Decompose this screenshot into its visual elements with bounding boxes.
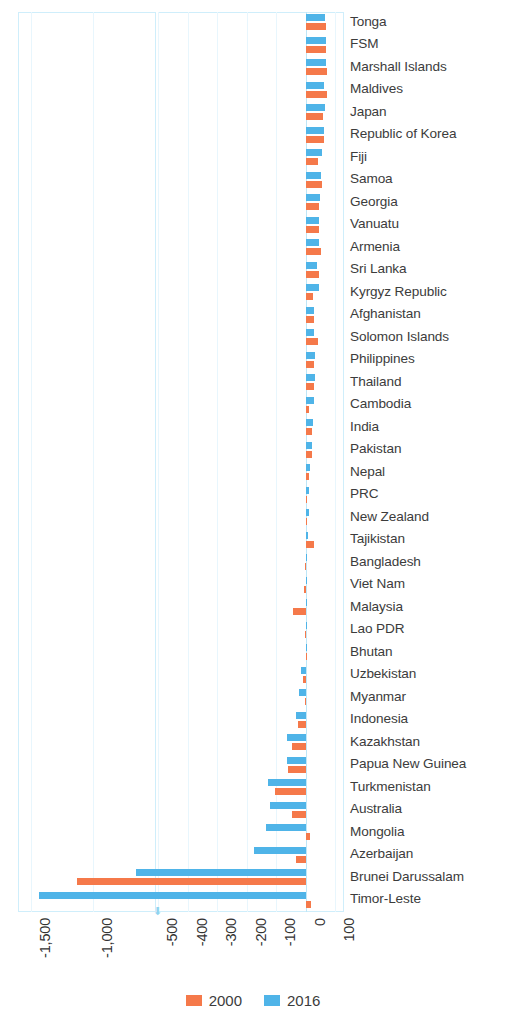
bar-2000 — [306, 136, 324, 143]
bar-2016 — [306, 554, 308, 561]
bar-2016 — [306, 397, 315, 404]
bar-2016 — [306, 577, 307, 584]
bar-group — [0, 800, 506, 823]
bar-2016 — [299, 689, 306, 696]
bar-2016 — [306, 59, 326, 66]
bar-2016 — [306, 442, 312, 449]
bar-group — [0, 305, 506, 328]
bar-2000 — [303, 676, 305, 683]
bar-group — [0, 35, 506, 58]
category-label: Samoa — [350, 168, 393, 191]
bar-group — [0, 687, 506, 710]
bar-2000 — [305, 698, 306, 705]
bar-group — [0, 395, 506, 418]
legend-label: 2000 — [209, 992, 242, 1009]
bar-2000 — [306, 158, 318, 165]
bar-group — [0, 732, 506, 755]
bar-2000 — [77, 878, 306, 885]
category-label: Turkmenistan — [350, 776, 431, 799]
category-label: Cambodia — [350, 393, 411, 416]
bar-2000 — [296, 856, 306, 863]
bar-2016 — [306, 284, 320, 291]
category-label: Vanuatu — [350, 213, 399, 236]
bar-2016 — [306, 239, 319, 246]
bar-2016 — [306, 104, 325, 111]
bar-2000 — [306, 203, 319, 210]
bar-2000 — [306, 91, 328, 98]
category-label: Pakistan — [350, 438, 401, 461]
bar-group — [0, 552, 506, 575]
bar-2000 — [306, 226, 320, 233]
bar-2000 — [306, 23, 327, 30]
bar-2000 — [306, 293, 313, 300]
category-label: Bhutan — [350, 641, 393, 664]
category-label: Tonga — [350, 11, 387, 34]
bar-2000 — [306, 383, 314, 390]
bar-group — [0, 440, 506, 463]
bar-2016 — [306, 217, 319, 224]
category-label: Kazakhstan — [350, 731, 420, 754]
bar-2016 — [306, 172, 321, 179]
bar-2016 — [306, 307, 315, 314]
category-label: India — [350, 416, 379, 439]
bar-group — [0, 12, 506, 35]
bar-group — [0, 147, 506, 170]
bar-2016 — [306, 194, 321, 201]
category-label: Nepal — [350, 461, 385, 484]
legend-label: 2016 — [287, 992, 320, 1009]
legend-item[interactable]: 2016 — [264, 992, 320, 1009]
bar-group — [0, 822, 506, 845]
bar-group — [0, 575, 506, 598]
category-label: PRC — [350, 483, 378, 506]
bar-2016 — [266, 824, 306, 831]
bar-2000 — [304, 586, 305, 593]
x-tick-label: -1,000 — [99, 918, 115, 958]
bar-2016 — [287, 757, 306, 764]
bar-2000 — [306, 46, 327, 53]
bar-2016 — [306, 487, 309, 494]
category-label: Brunei Darussalam — [350, 866, 464, 889]
bar-2000 — [306, 518, 307, 525]
category-label: Myanmar — [350, 686, 406, 709]
category-label: Azerbaijan — [350, 843, 413, 866]
bar-group — [0, 620, 506, 643]
x-tick-label: 0 — [312, 918, 328, 926]
bar-2000 — [292, 811, 306, 818]
bar-2000 — [288, 766, 305, 773]
bar-2016 — [287, 734, 306, 741]
category-label: Armenia — [350, 236, 400, 259]
bar-2000 — [306, 406, 309, 413]
bar-group — [0, 485, 506, 508]
bar-2000 — [306, 496, 307, 503]
bar-group — [0, 192, 506, 215]
bar-group — [0, 462, 506, 485]
bar-2016 — [306, 464, 310, 471]
bar-2016 — [306, 37, 327, 44]
bar-group — [0, 417, 506, 440]
bar-2016 — [136, 869, 306, 876]
bar-2016 — [306, 14, 326, 21]
bar-group — [0, 710, 506, 733]
category-label: Lao PDR — [350, 618, 404, 641]
category-label: Australia — [350, 798, 402, 821]
x-tick-label: -300 — [223, 918, 239, 946]
bar-group — [0, 845, 506, 868]
category-label: Papua New Guinea — [350, 753, 466, 776]
bar-2000 — [306, 361, 315, 368]
bar-group — [0, 372, 506, 395]
bar-2016 — [306, 419, 313, 426]
bar-2000 — [306, 338, 318, 345]
bar-2000 — [306, 181, 322, 188]
bar-2000 — [306, 68, 328, 75]
bar-group — [0, 80, 506, 103]
bar-2016 — [306, 262, 317, 269]
bar-2016 — [306, 82, 324, 89]
bar-2000 — [306, 653, 307, 660]
bar-2000 — [305, 631, 306, 638]
bar-2000 — [298, 721, 305, 728]
category-label: FSM — [350, 33, 378, 56]
bar-2016 — [296, 712, 305, 719]
x-tick-label: 100 — [341, 918, 357, 942]
legend-item[interactable]: 2000 — [186, 992, 242, 1009]
bar-group — [0, 597, 506, 620]
